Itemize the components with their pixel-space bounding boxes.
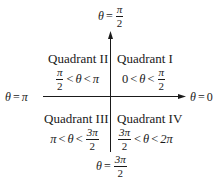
quadrant-title: Quadrant II [48, 52, 106, 65]
equals-sign: = [13, 90, 20, 105]
denominator: 2 [159, 80, 165, 92]
quadrant-range: 3π 2 < θ < 2π [117, 127, 187, 152]
numerator: π [56, 67, 64, 80]
denominator: 2 [117, 167, 123, 179]
numerator: π [116, 4, 124, 17]
quadrant-i: Quadrant I 0 < θ < π 2 [117, 52, 173, 92]
value: 0 [207, 90, 213, 105]
quadrant-range: 0 < θ < π 2 [117, 67, 173, 92]
fraction: 3π 2 [86, 127, 99, 152]
theta-symbol: θ [96, 159, 102, 174]
theta-symbol: θ [76, 72, 82, 87]
lower-bound: π [50, 132, 56, 147]
theta-symbol: θ [5, 90, 11, 105]
less-than: < [147, 72, 154, 87]
label-theta-3pi-over-2: θ = 3π 2 [96, 154, 128, 179]
quadrant-title: Quadrant IV [117, 112, 187, 125]
less-than: < [134, 132, 141, 147]
theta-symbol: θ [143, 132, 149, 147]
quadrant-range: π 2 < θ < π [48, 67, 106, 92]
numerator: π [158, 67, 166, 80]
quadrant-title: Quadrant III [44, 112, 106, 125]
less-than: < [58, 132, 65, 147]
fraction: π 2 [116, 4, 124, 29]
numerator: 3π [114, 154, 127, 167]
fraction: π 2 [158, 67, 166, 92]
denominator: 2 [122, 140, 128, 152]
denominator: 2 [117, 17, 123, 29]
quadrant-ii: Quadrant II π 2 < θ < π [48, 52, 106, 92]
equals-sign: = [198, 90, 205, 105]
quadrant-range: π < θ < 3π 2 [44, 127, 106, 152]
value: π [22, 90, 28, 105]
numerator: 3π [86, 127, 99, 140]
fraction: π 2 [56, 67, 64, 92]
denominator: 2 [57, 80, 63, 92]
quadrant-iv: Quadrant IV 3π 2 < θ < 2π [117, 112, 187, 152]
equals-sign: = [106, 9, 113, 24]
less-than: < [84, 72, 91, 87]
quadrant-iii: Quadrant III π < θ < 3π 2 [44, 112, 106, 152]
label-theta-pi: θ = π [5, 90, 28, 105]
quadrant-title: Quadrant I [117, 52, 173, 65]
theta-symbol: θ [98, 9, 104, 24]
denominator: 2 [90, 140, 96, 152]
theta-symbol: θ [190, 90, 196, 105]
label-theta-pi-over-2: θ = π 2 [98, 4, 124, 29]
less-than: < [76, 132, 83, 147]
up-arrow-icon [108, 31, 113, 39]
theta-symbol: θ [139, 72, 145, 87]
label-theta-zero: θ = 0 [190, 90, 213, 105]
fraction: 3π 2 [114, 154, 127, 179]
less-than: < [151, 132, 158, 147]
fraction: 3π 2 [118, 127, 131, 152]
lower-bound: 0 [122, 72, 128, 87]
less-than: < [66, 72, 73, 87]
upper-bound: 2π [160, 132, 173, 147]
numerator: 3π [118, 127, 131, 140]
right-arrow-icon [178, 94, 186, 99]
equals-sign: = [104, 159, 111, 174]
upper-bound: π [93, 72, 99, 87]
theta-symbol: θ [68, 132, 74, 147]
less-than: < [130, 72, 137, 87]
